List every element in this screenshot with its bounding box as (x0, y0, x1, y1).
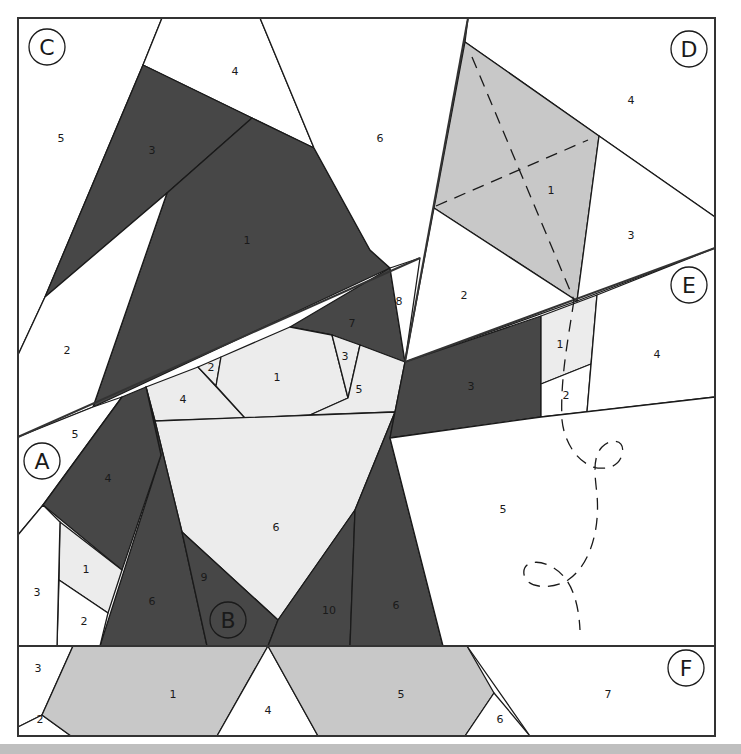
label-c8: 8 (396, 295, 403, 308)
label-b4: 4 (180, 393, 187, 406)
label-e5: 5 (500, 503, 507, 516)
label-b2: 2 (208, 361, 215, 374)
svg-text:D: D (681, 37, 698, 62)
label-f4: 4 (265, 704, 272, 717)
label-a2: 2 (81, 615, 88, 628)
pattern-svg: C D E A B F 4 5 3 6 1 2 7 8 2 (0, 0, 741, 754)
quilt-pattern-diagram: C D E A B F 4 5 3 6 1 2 7 8 2 (0, 0, 741, 754)
label-d4: 4 (628, 94, 635, 107)
label-f5: 5 (398, 688, 405, 701)
section-label-d: D (671, 31, 707, 67)
svg-text:A: A (34, 449, 49, 474)
label-c4: 4 (232, 65, 239, 78)
label-c1: 1 (244, 234, 251, 247)
label-a1: 1 (83, 563, 90, 576)
label-c3: 3 (149, 144, 156, 157)
label-b6-right: 6 (393, 599, 400, 612)
label-f7: 7 (605, 688, 612, 701)
label-a4: 4 (105, 472, 112, 485)
label-e3: 3 (468, 380, 475, 393)
label-b5: 5 (356, 383, 363, 396)
svg-text:E: E (682, 273, 696, 298)
label-b1: 1 (274, 371, 281, 384)
svg-text:C: C (39, 35, 54, 60)
svg-text:F: F (680, 656, 693, 681)
label-e2: 2 (563, 389, 570, 402)
svg-text:B: B (220, 608, 235, 633)
label-e4: 4 (654, 348, 661, 361)
label-c5: 5 (58, 132, 65, 145)
label-d2: 2 (461, 289, 468, 302)
section-label-e: E (671, 267, 707, 303)
label-e1: 1 (557, 338, 564, 351)
label-c2: 2 (64, 344, 71, 357)
section-label-f: F (668, 650, 704, 686)
label-b6-left: 6 (149, 595, 156, 608)
bottom-gray-band (0, 744, 741, 754)
label-d3: 3 (628, 229, 635, 242)
label-c6: 6 (377, 132, 384, 145)
label-a3: 3 (34, 586, 41, 599)
label-f1: 1 (170, 688, 177, 701)
label-d1: 1 (548, 184, 555, 197)
section-label-a: A (24, 443, 60, 479)
label-f6: 6 (497, 713, 504, 726)
label-b10: 10 (322, 604, 336, 617)
piece-e5 (390, 397, 715, 646)
label-b3: 3 (342, 350, 349, 363)
label-f3: 3 (35, 662, 42, 675)
section-label-c: C (29, 29, 65, 65)
label-f2: 2 (37, 713, 44, 726)
label-a5: 5 (72, 428, 79, 441)
label-c7: 7 (349, 317, 356, 330)
label-b9: 9 (201, 571, 208, 584)
label-b6-face: 6 (273, 521, 280, 534)
